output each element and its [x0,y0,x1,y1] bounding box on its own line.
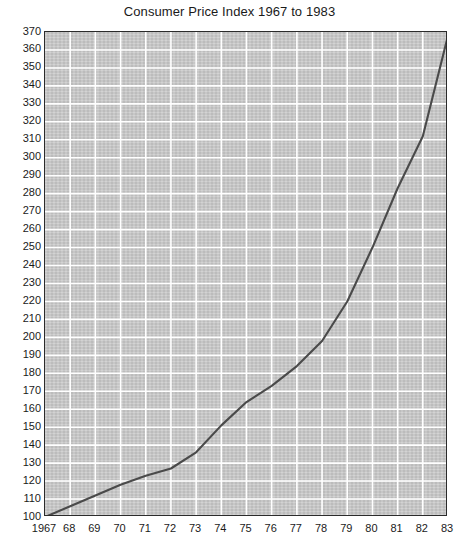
y-axis-tick-label: 230 [1,277,41,288]
x-axis-tick-label: 81 [391,523,403,534]
cpi-trend-line [45,36,447,516]
y-axis-tick-label: 290 [1,169,41,180]
x-axis-tick-label: 83 [441,523,453,534]
y-axis-tick-label: 190 [1,349,41,360]
y-axis-tick-label: 310 [1,133,41,144]
y-axis-tick-label: 240 [1,259,41,270]
y-axis-tick-label: 160 [1,403,41,414]
x-axis-tick-label: 68 [63,523,75,534]
chart-figure: Consumer Price Index 1967 to 1983 370360… [0,0,459,551]
x-axis-tick-label: 1967 [32,523,56,534]
plot-wrapper [44,31,447,516]
y-axis: 3703603503403303203103002902802702602502… [0,31,41,516]
y-axis-tick-label: 340 [1,79,41,90]
x-axis-tick-label: 76 [265,523,277,534]
x-axis-tick-label: 69 [88,523,100,534]
y-axis-tick-label: 370 [1,26,41,37]
plot-area [44,31,447,516]
cpi-line-series [45,32,447,516]
y-axis-tick-label: 180 [1,367,41,378]
y-axis-tick-label: 250 [1,241,41,252]
y-axis-tick-label: 170 [1,385,41,396]
y-axis-tick-label: 140 [1,439,41,450]
y-axis-tick-label: 260 [1,223,41,234]
y-axis-tick-label: 330 [1,97,41,108]
x-axis-tick-label: 80 [365,523,377,534]
y-axis-tick-label: 270 [1,205,41,216]
y-axis-tick-label: 100 [1,511,41,522]
y-axis-tick-label: 300 [1,151,41,162]
x-axis-tick-label: 73 [189,523,201,534]
y-axis-tick-label: 150 [1,421,41,432]
y-axis-tick-label: 210 [1,313,41,324]
y-axis-tick-label: 110 [1,493,41,504]
x-axis-tick-label: 78 [315,523,327,534]
x-axis-tick-label: 79 [340,523,352,534]
x-axis-tick-label: 71 [139,523,151,534]
y-axis-tick-label: 350 [1,61,41,72]
y-axis-tick-label: 320 [1,115,41,126]
x-axis-tick-label: 82 [416,523,428,534]
y-axis-tick-label: 200 [1,331,41,342]
x-axis-tick-label: 74 [214,523,226,534]
y-axis-tick-label: 130 [1,457,41,468]
x-axis: 196768697071727374757677787980818283 [0,523,459,539]
chart-title: Consumer Price Index 1967 to 1983 [0,4,459,19]
y-axis-tick-label: 360 [1,43,41,54]
y-axis-tick-label: 280 [1,187,41,198]
x-axis-tick-label: 75 [239,523,251,534]
y-axis-tick-label: 120 [1,475,41,486]
x-axis-tick-label: 70 [113,523,125,534]
y-axis-tick-label: 220 [1,295,41,306]
x-axis-tick-label: 77 [290,523,302,534]
x-axis-tick-label: 72 [164,523,176,534]
